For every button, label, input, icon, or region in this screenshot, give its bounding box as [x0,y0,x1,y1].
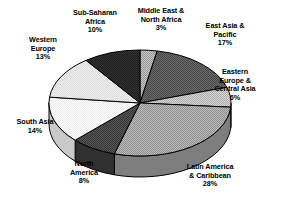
slice-value: 6% [204,94,266,103]
slice-value: 17% [196,39,254,48]
pie-chart: Sub-Saharan Africa 10% Middle East & Nor… [0,0,284,206]
slice-label-middle-east-north-africa: Middle East & North Africa 3% [130,7,192,33]
slice-label-eastern-europe-central-asia: Eastern Europe & Central Asia 6% [204,68,266,102]
slice-value: 10% [64,26,126,35]
slice-label-western-europe: Western Europe 13% [16,36,70,62]
slice-value: 28% [172,180,248,189]
slice-label-east-asia-pacific: East Asia & Pacific 17% [196,22,254,48]
slice-value: 3% [130,24,192,33]
slice-label-sub-saharan-africa: Sub-Saharan Africa 10% [64,9,126,35]
pie-slices [49,50,231,156]
slice-value: 13% [16,53,70,62]
slice-label-north-america: North America 8% [56,160,112,186]
slice-value: 14% [4,127,66,136]
slice-label-latin-america-caribbean: Latin America & Caribbean 28% [172,163,248,189]
slice-label-south-asia: South Asia 14% [4,118,66,135]
slice-value: 8% [56,177,112,186]
